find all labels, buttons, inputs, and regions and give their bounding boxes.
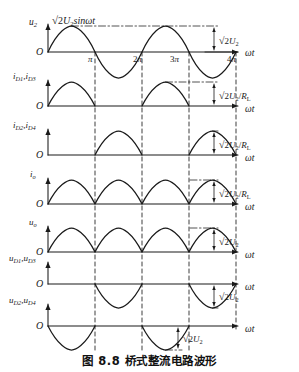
xaxis-label-uD2: ωt — [245, 324, 255, 334]
ylabel-u2: u2 — [29, 17, 38, 28]
xaxis-label-iD1: ωt — [245, 104, 255, 114]
amplitude-label-io: √2U2/RL — [219, 188, 251, 200]
amplitude-label-iD2: √2U2/RL — [219, 139, 251, 151]
xaxis-label-uo: ωt — [245, 250, 255, 260]
ylabel-uD1-uD3: uD1,uD3 — [9, 253, 36, 264]
origin-uD1: O — [36, 278, 43, 289]
panel-io — [48, 178, 238, 204]
waveform-svg: u2 √2U2sinωt O √2U2 ωt π 2π 3π 4π iD1,iD… — [0, 0, 299, 372]
panel-iD1-iD3-labels: iD1,iD3 O √2U2/RL ωt — [13, 71, 255, 114]
origin-iD1: O — [36, 100, 43, 111]
panel-io-labels: io O √2U2/RL ωt — [30, 169, 255, 212]
panel-iD1-iD3 — [48, 80, 238, 106]
origin-uo: O — [36, 246, 43, 257]
tick-4pi: 4π — [227, 54, 237, 64]
panel-u2 — [48, 24, 238, 78]
origin-io: O — [36, 198, 43, 209]
panel-uD2-uD4 — [48, 304, 238, 350]
panel-uD1-uD3-labels: uD1,uD3 O √2U2 ωt — [9, 253, 255, 303]
amplitude-label-u2: √2U2 — [219, 35, 239, 47]
panel-iD2-iD4 — [48, 129, 238, 155]
origin-u2: O — [36, 46, 43, 57]
grid-lines — [95, 52, 236, 350]
xaxis-label-uD1: ωt — [245, 282, 255, 292]
ylabel-iD1-iD3: iD1,iD3 — [13, 71, 36, 82]
ylabel-iD2-iD4: iD2,iD4 — [13, 120, 36, 131]
tick-2pi: 2π — [133, 54, 143, 64]
xaxis-label-iD2: ωt — [245, 153, 255, 163]
rectifier-waveform-figure: u2 √2U2sinωt O √2U2 ωt π 2π 3π 4π iD1,iD… — [0, 0, 299, 372]
ylabel-io: io — [30, 169, 36, 180]
origin-iD2: O — [36, 149, 43, 160]
tick-3pi: 3π — [170, 54, 180, 64]
origin-uD2: O — [36, 320, 43, 331]
curve-label-u2: √2U2sinωt — [52, 14, 95, 27]
ylabel-uD2-uD4: uD2,uD4 — [9, 295, 36, 306]
amplitude-label-iD1: √2U2/RL — [219, 90, 251, 102]
figure-caption: 图 8.8 桥式整流电路波形 — [0, 352, 299, 368]
xaxis-label-u2: ωt — [245, 48, 255, 58]
panel-u2-ticks: π 2π 3π 4π — [88, 54, 237, 64]
xaxis-label-io: ωt — [245, 202, 255, 212]
tick-pi: π — [88, 54, 93, 64]
panel-uo — [48, 226, 238, 252]
ylabel-uo: uo — [29, 217, 37, 228]
panel-uD1-uD3 — [48, 262, 238, 308]
panel-uD2-uD4-labels: uD2,uD4 O √2U2 ωt — [9, 295, 255, 345]
amplitude-label-uD2: √2U2 — [183, 333, 203, 345]
